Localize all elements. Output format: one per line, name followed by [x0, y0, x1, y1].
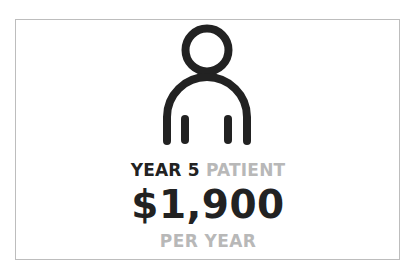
- year-label: YEAR 5: [131, 160, 200, 180]
- patient-word: PATIENT: [206, 160, 286, 180]
- cost-amount: $1,900: [0, 183, 416, 227]
- period-label: PER YEAR: [0, 231, 416, 251]
- patient-label: YEAR 5 PATIENT: [0, 160, 416, 180]
